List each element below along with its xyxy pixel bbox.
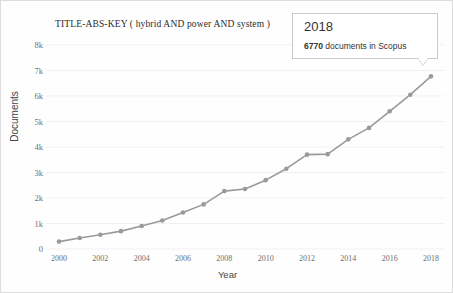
data-point[interactable] bbox=[201, 202, 206, 207]
data-markers bbox=[57, 74, 434, 244]
data-point[interactable] bbox=[325, 152, 330, 157]
data-point[interactable] bbox=[57, 239, 62, 244]
data-tooltip[interactable]: 2018 6770 documents in Scopus bbox=[292, 13, 438, 59]
data-point[interactable] bbox=[367, 126, 372, 131]
y-tick-label: 5k bbox=[17, 117, 43, 127]
data-point[interactable] bbox=[305, 152, 310, 157]
data-point[interactable] bbox=[387, 109, 392, 114]
x-tick-label: 2012 bbox=[299, 254, 315, 263]
x-tick-label: 2010 bbox=[258, 254, 274, 263]
y-tick-label: 8k bbox=[17, 40, 43, 50]
x-tick-label: 2014 bbox=[340, 254, 356, 263]
y-axis-tick-labels: 8k7k6k5k4k3k2k1k0 bbox=[13, 39, 43, 250]
data-point[interactable] bbox=[119, 229, 124, 234]
data-line bbox=[59, 76, 431, 241]
data-point[interactable] bbox=[263, 178, 268, 183]
tooltip-year: 2018 bbox=[304, 19, 333, 34]
y-tick-label: 4k bbox=[17, 142, 43, 152]
chart-title: TITLE-ABS-KEY ( hybrid AND power AND sys… bbox=[55, 19, 270, 29]
data-point[interactable] bbox=[408, 92, 413, 97]
tooltip-detail-suffix: documents in Scopus bbox=[323, 41, 407, 51]
data-point[interactable] bbox=[181, 210, 186, 215]
data-point[interactable] bbox=[429, 74, 434, 79]
x-tick-label: 2008 bbox=[216, 254, 232, 263]
x-tick-label: 2018 bbox=[423, 254, 439, 263]
x-tick-label: 2004 bbox=[134, 254, 150, 263]
data-point[interactable] bbox=[346, 137, 351, 142]
data-point[interactable] bbox=[284, 166, 289, 171]
tooltip-detail: 6770 documents in Scopus bbox=[304, 41, 407, 51]
y-tick-label: 2k bbox=[17, 193, 43, 203]
data-point[interactable] bbox=[98, 232, 103, 237]
y-tick-label: 1k bbox=[17, 219, 43, 229]
x-tick-label: 2002 bbox=[92, 254, 108, 263]
y-tick-label: 7k bbox=[17, 66, 43, 76]
tooltip-count: 6770 bbox=[304, 41, 323, 51]
gridlines bbox=[46, 45, 444, 249]
data-point[interactable] bbox=[139, 224, 144, 229]
y-tick-label: 6k bbox=[17, 91, 43, 101]
line-chart-svg bbox=[46, 39, 444, 250]
x-axis-title: Year bbox=[1, 269, 453, 280]
y-tick-label: 0 bbox=[17, 244, 43, 254]
data-point[interactable] bbox=[77, 236, 82, 241]
tooltip-pointer bbox=[418, 58, 428, 65]
x-tick-label: 2006 bbox=[175, 254, 191, 263]
x-axis-tick-labels: 2000200220042006200820102012201420162018 bbox=[46, 254, 444, 268]
chart-screenshot: TITLE-ABS-KEY ( hybrid AND power AND sys… bbox=[0, 0, 453, 293]
x-tick-label: 2000 bbox=[51, 254, 67, 263]
y-tick-label: 3k bbox=[17, 168, 43, 178]
data-point[interactable] bbox=[222, 189, 227, 194]
plot-area bbox=[46, 39, 444, 250]
data-point[interactable] bbox=[160, 218, 165, 223]
data-point[interactable] bbox=[243, 187, 248, 192]
x-tick-label: 2016 bbox=[382, 254, 398, 263]
